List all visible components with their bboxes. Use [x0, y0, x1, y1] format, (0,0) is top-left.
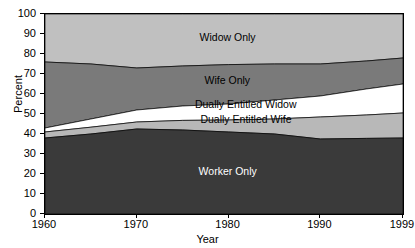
y-tick-label: 60 — [0, 88, 36, 98]
x-tick-label: 1960 — [21, 218, 67, 230]
series-label-dually-entitled-wife: Dually Entitled Wife — [200, 113, 291, 125]
y-tick-label: 20 — [0, 168, 36, 178]
x-tick-label: 1970 — [113, 218, 159, 230]
x-tick-label: 1999 — [379, 218, 415, 230]
y-tick-label: 40 — [0, 128, 36, 138]
x-axis-title: Year — [0, 233, 415, 245]
y-tick-label: 0 — [0, 208, 36, 218]
x-tick-label: 1990 — [296, 218, 342, 230]
y-tick-label: 90 — [0, 28, 36, 38]
y-tick-label: 30 — [0, 148, 36, 158]
x-tick-label: 1980 — [205, 218, 251, 230]
series-label-wife-only: Wife Only — [205, 74, 251, 86]
series-label-dually-entitled-widow: Dually Entitled Widow — [195, 98, 297, 110]
stacked-area-chart: Percent 1009080706050403020100 196019701… — [0, 0, 415, 248]
y-tick-label: 50 — [0, 108, 36, 118]
series-label-worker-only: Worker Only — [199, 165, 257, 177]
series-label-widow-only: Widow Only — [200, 31, 256, 43]
y-tick-label: 80 — [0, 48, 36, 58]
y-tick-label: 10 — [0, 188, 36, 198]
y-tick-label: 70 — [0, 68, 36, 78]
y-tick-label: 100 — [0, 8, 36, 18]
